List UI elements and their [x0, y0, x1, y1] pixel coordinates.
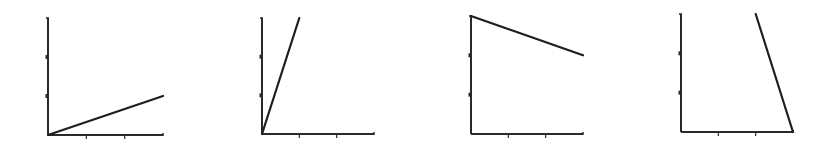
- series-line: [262, 18, 299, 134]
- y-tick: [679, 91, 682, 95]
- series-line: [756, 14, 793, 132]
- y-tick: [46, 94, 49, 98]
- y-tick: [260, 55, 263, 59]
- y-tick: [260, 93, 263, 97]
- y-tick: [469, 93, 472, 97]
- series-line: [48, 96, 163, 135]
- y-tick: [46, 55, 49, 59]
- charts-canvas: [0, 0, 829, 154]
- y-tick: [469, 53, 472, 57]
- chart-3: [469, 16, 584, 138]
- chart-4: [679, 14, 794, 136]
- series-line: [471, 16, 583, 55]
- chart-2: [260, 18, 375, 138]
- y-tick: [679, 51, 682, 55]
- chart-1: [46, 18, 164, 139]
